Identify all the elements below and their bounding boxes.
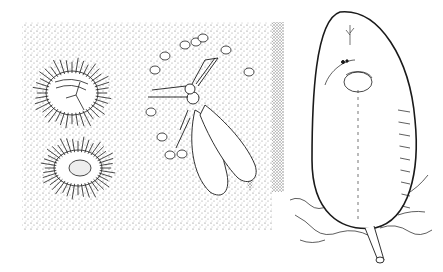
scale-body <box>312 12 416 229</box>
leaf-surface <box>22 22 272 230</box>
illustration <box>0 0 443 272</box>
illustration-svg <box>0 0 443 272</box>
stalk <box>365 226 384 263</box>
stipple-edge <box>272 22 284 192</box>
